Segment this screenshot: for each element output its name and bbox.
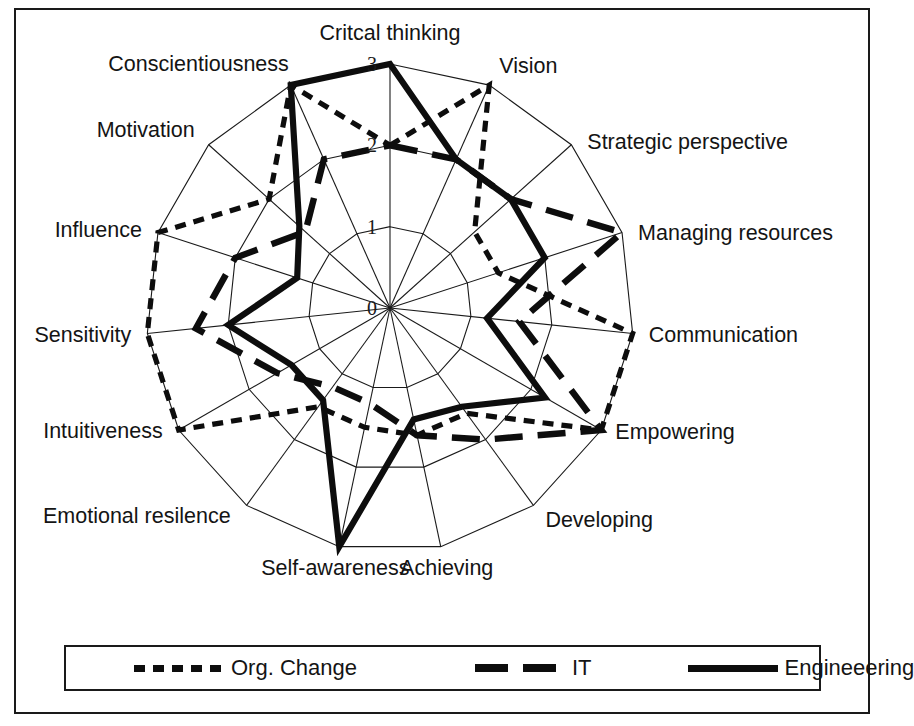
- radial-tick-2: 2: [367, 134, 377, 156]
- category-label-emotional-resilence: Emotional resilence: [43, 504, 231, 528]
- legend-item-it: IT: [475, 655, 592, 681]
- category-label-influence: Influence: [55, 218, 142, 242]
- axis-spoke: [147, 308, 390, 334]
- category-label-intuitiveness: Intuitiveness: [43, 419, 163, 443]
- radial-tick-0: 0: [367, 297, 377, 319]
- legend-item-org-change: Org. Change: [134, 655, 357, 681]
- legend-item-engineering: Engineeering: [688, 655, 914, 681]
- category-label-critcal-thinking: Critcal thinking: [320, 21, 461, 45]
- axis-spoke: [390, 308, 633, 334]
- axis-spoke: [291, 85, 390, 308]
- category-label-vision: Vision: [499, 54, 557, 78]
- category-label-conscientiousness: Conscientiousness: [108, 52, 288, 76]
- category-label-sensitivity: Sensitivity: [35, 323, 132, 347]
- radial-tick-3: 3: [367, 53, 377, 75]
- category-label-achieving: Achieving: [400, 556, 493, 580]
- legend-label-org-change: Org. Change: [231, 655, 357, 681]
- legend-label-it: IT: [572, 655, 592, 681]
- category-label-self-awareness: Self-awareness: [261, 556, 409, 580]
- category-label-empowering: Empowering: [615, 420, 735, 444]
- dashed-line-swatch-icon: [475, 664, 565, 672]
- category-label-developing: Developing: [545, 508, 653, 532]
- dotted-line-swatch-icon: [134, 665, 224, 672]
- radial-tick-1: 1: [367, 216, 377, 238]
- category-labels: Critcal thinkingVisionStrategic perspect…: [35, 21, 833, 580]
- category-label-motivation: Motivation: [97, 118, 195, 142]
- category-label-strategic-perspective: Strategic perspective: [587, 130, 788, 154]
- category-label-managing-resources: Managing resources: [638, 221, 833, 245]
- category-label-communication: Communication: [649, 323, 798, 347]
- legend-label-engineering: Engineeering: [785, 655, 914, 681]
- solid-line-swatch-icon: [688, 665, 778, 672]
- radial-axis-tick-labels: 0123: [367, 53, 377, 319]
- axis-spoke: [179, 308, 390, 430]
- axis-spoke: [390, 85, 489, 308]
- chart-legend: Org. Change IT Engineeering: [64, 645, 821, 691]
